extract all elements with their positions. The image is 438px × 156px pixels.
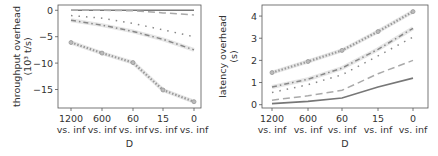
x-tick-label: 600	[93, 113, 111, 124]
series-line-s4	[272, 28, 413, 87]
throughput-chart: 0−5−10−151200vs. inf600vs. inf60vs. inf1…	[11, 5, 209, 149]
y-tick-label: 4	[251, 11, 257, 22]
x-tick-label: 15	[157, 113, 169, 124]
x-tick-label: 60	[336, 113, 348, 124]
plot-frame	[262, 5, 428, 108]
x-tick-label: 15	[372, 113, 384, 124]
x-tick-label-sub: vs. inf	[180, 124, 209, 135]
x-axis-label: D	[126, 138, 133, 149]
x-tick-label-sub: vs. inf	[258, 124, 287, 135]
y-axis-label: (10³ t/s)	[22, 37, 33, 75]
x-tick-label: 1200	[59, 113, 83, 124]
x-axis-label: D	[341, 138, 348, 149]
x-tick-label-sub: vs. inf	[399, 124, 428, 135]
y-axis-label: (s)	[228, 50, 239, 62]
x-tick-label-sub: vs. inf	[57, 124, 86, 135]
y-tick-label: 1	[251, 77, 257, 88]
y-tick-label: −10	[33, 58, 53, 69]
chart-figure: 0−5−10−151200vs. inf600vs. inf60vs. inf1…	[0, 0, 438, 156]
y-tick-label: 0	[47, 5, 53, 16]
y-tick-label: −15	[33, 84, 53, 95]
x-tick-label-sub: vs. inf	[328, 124, 357, 135]
x-tick-label-sub: vs. inf	[294, 124, 323, 135]
x-tick-label: 600	[299, 113, 317, 124]
x-tick-label-sub: vs. inf	[88, 124, 117, 135]
series-line-s3	[71, 16, 194, 37]
y-tick-label: 0	[251, 99, 257, 110]
x-tick-label: 0	[191, 113, 197, 124]
x-tick-label: 60	[127, 113, 139, 124]
latency-chart: 012341200vs. inf600vs. inf60vs. inf15vs.…	[217, 5, 428, 149]
y-tick-label: 3	[251, 33, 257, 44]
y-axis-label: latency overhead	[217, 15, 228, 98]
y-tick-label: 2	[251, 55, 257, 66]
y-axis-label: throughput overhead	[11, 6, 22, 107]
x-tick-label-sub: vs. inf	[119, 124, 148, 135]
x-tick-label: 0	[410, 113, 416, 124]
x-tick-label-sub: vs. inf	[364, 124, 393, 135]
x-tick-label: 1200	[260, 113, 284, 124]
y-tick-label: −5	[39, 31, 53, 42]
x-tick-label-sub: vs. inf	[149, 124, 178, 135]
